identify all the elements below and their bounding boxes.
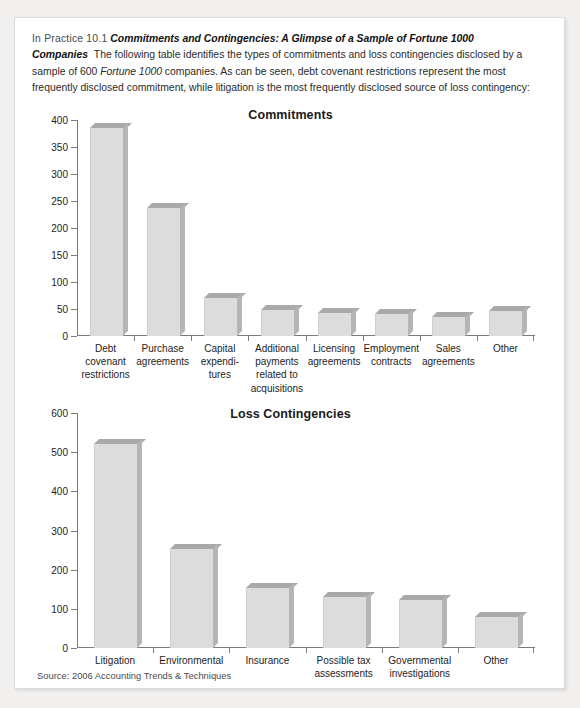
bar [170,549,213,648]
bar-side-face [351,308,356,336]
x-category-label: Litigation [77,654,153,667]
x-tick-mark [153,648,154,653]
y-tick-label: 50 [57,304,68,315]
x-tick-mark [306,648,307,653]
y-tick-label: 600 [51,408,68,419]
bar [90,128,123,336]
x-category-label: Insurance [229,654,305,667]
y-tick-mark [71,648,77,649]
bar [489,311,522,336]
bar [204,298,237,336]
bar [318,313,351,336]
y-tick-mark [71,147,77,148]
y-tick-mark [71,452,77,453]
intro-paragraph: In Practice 10.1 Commitments and Conting… [32,31,550,96]
y-tick-label: 350 [51,142,68,153]
y-tick-mark [71,413,77,414]
x-category-label: Possible taxassessments [306,654,382,680]
bar-side-face [294,305,299,336]
x-category-label: Employmentcontracts [363,342,420,368]
bar [261,310,294,336]
x-tick-mark [306,336,307,341]
y-tick-label: 0 [62,331,68,342]
bar [147,208,180,336]
x-tick-mark [382,648,383,653]
y-tick-mark [71,255,77,256]
in-practice-card: In Practice 10.1 Commitments and Conting… [14,17,565,689]
x-tick-mark [191,336,192,341]
x-tick-mark [134,336,135,341]
y-tick-label: 300 [51,169,68,180]
y-tick-label: 300 [51,525,68,536]
y-tick-mark [71,309,77,310]
y-tick-mark [71,570,77,571]
y-tick-label: 200 [51,223,68,234]
intro-text-emphasis: Fortune 1000 [100,66,162,77]
bar-side-face [289,583,294,648]
y-tick-label: 400 [51,486,68,497]
bar-side-face [180,203,185,336]
y-tick-label: 0 [62,643,68,654]
bar-side-face [213,544,218,648]
x-category-label: Governmentalinvestigations [382,654,458,680]
bar-side-face [237,293,242,336]
bar [399,600,442,648]
bar-side-face [522,306,527,336]
y-tick-label: 400 [51,115,68,126]
y-tick-label: 500 [51,447,68,458]
x-tick-mark [420,336,421,341]
y-tick-mark [71,282,77,283]
y-axis-commitments [77,120,78,336]
x-tick-mark [248,336,249,341]
bar-side-face [366,592,371,648]
x-tick-mark [363,336,364,341]
y-tick-label: 250 [51,196,68,207]
x-category-label: Other [458,654,534,667]
x-category-label: Capitalexpendi-tures [191,342,248,382]
bar [323,597,366,648]
y-axis-loss-contingencies [77,413,78,648]
x-category-label: Purchaseagreements [134,342,191,368]
y-tick-mark [71,491,77,492]
x-category-label: Other [477,342,534,355]
bar [432,317,465,336]
source-note: Source: 2006 Accounting Trends & Techniq… [37,670,231,681]
y-tick-mark [71,174,77,175]
y-tick-mark [71,531,77,532]
x-category-label: Salesagreements [420,342,477,368]
x-tick-mark [533,336,534,341]
y-tick-mark [71,201,77,202]
y-tick-mark [71,120,77,121]
bar-side-face [442,595,447,648]
x-category-label: Licensingagreements [306,342,363,368]
x-tick-mark [458,648,459,653]
x-tick-mark [533,648,534,653]
bar [246,588,289,648]
bar-side-face [518,612,523,648]
bar [375,314,408,336]
bar-side-face [123,123,128,336]
x-category-label: Environmental [153,654,229,667]
bar-side-face [408,309,413,336]
plot-area-loss-contingencies: 0100200300400500600 [77,413,534,648]
practice-label: In Practice 10.1 [32,33,107,44]
bar [94,444,137,648]
y-tick-label: 100 [51,603,68,614]
y-tick-mark [71,609,77,610]
x-category-label: Additionalpaymentsrelated toacquisitions [248,342,305,395]
y-tick-label: 150 [51,250,68,261]
x-tick-mark [477,336,478,341]
y-tick-mark [71,228,77,229]
y-tick-mark [71,336,77,337]
y-tick-label: 100 [51,277,68,288]
y-tick-label: 200 [51,564,68,575]
bar [475,617,518,648]
x-tick-mark [229,648,230,653]
x-category-label: Debtcovenantrestrictions [77,342,134,382]
bar-side-face [465,312,470,336]
plot-area-commitments: 050100150200250300350400 [77,120,534,336]
bar-side-face [137,439,142,648]
